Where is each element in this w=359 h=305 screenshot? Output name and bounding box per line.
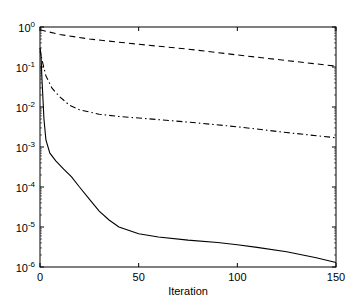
series-dashed-line — [40, 30, 336, 66]
y-tick-label: 10-1 — [16, 60, 36, 74]
series-solid-line — [40, 51, 336, 262]
x-tick-label: 100 — [228, 271, 246, 283]
convergence-chart: 10010-110-210-310-410-510-6 050100150 It… — [0, 0, 359, 305]
x-tick-label: 150 — [327, 271, 345, 283]
y-tick-label: 10-4 — [16, 180, 36, 194]
y-tick-label: 100 — [18, 20, 35, 34]
plot-lines — [40, 30, 336, 263]
y-axis: 10010-110-210-310-410-510-6 — [16, 20, 336, 274]
y-tick-label: 10-5 — [16, 220, 36, 234]
x-axis-label: Iteration — [168, 285, 208, 297]
x-tick-label: 0 — [37, 271, 43, 283]
x-axis: 050100150 — [37, 27, 345, 283]
y-tick-label: 10-3 — [16, 140, 36, 154]
x-tick-label: 50 — [133, 271, 145, 283]
plot-frame — [40, 27, 336, 267]
y-tick-label: 10-6 — [16, 260, 36, 274]
y-tick-label: 10-2 — [16, 100, 36, 114]
